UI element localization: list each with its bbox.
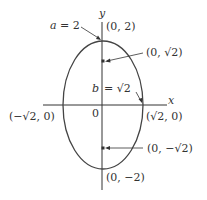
focus-lower-label: (0, −√2)	[147, 142, 193, 155]
arrowhead-b-icon	[139, 98, 143, 103]
x-axis-label: x	[168, 94, 175, 107]
arrow-focus-upper	[107, 53, 143, 61]
b-name-label: b	[92, 82, 99, 95]
arrowhead-focus-upper-icon	[105, 59, 111, 63]
b-value-label: = √2	[104, 82, 131, 95]
vertex-top-label: (0, 2)	[106, 20, 136, 33]
co-vertex-left-label: (−√2, 0)	[9, 110, 55, 123]
arrowhead-focus-lower-icon	[105, 146, 110, 150]
y-axis-label: y	[98, 7, 106, 20]
origin-label: 0	[92, 107, 99, 120]
arrowhead-a-icon	[96, 36, 101, 41]
co-vertex-right-label: (√2, 0)	[146, 110, 183, 123]
a-value-label: = 2	[60, 19, 80, 32]
focus-point-upper	[102, 60, 105, 63]
ellipse-diagram: y x 0 a = 2 b = √2 (0, 2) (0, −2) (0, √2…	[0, 0, 207, 200]
focus-point-lower	[102, 147, 105, 150]
vertex-bottom-label: (0, −2)	[106, 171, 145, 184]
focus-upper-label: (0, √2)	[146, 46, 183, 59]
a-name-label: a	[50, 19, 57, 32]
